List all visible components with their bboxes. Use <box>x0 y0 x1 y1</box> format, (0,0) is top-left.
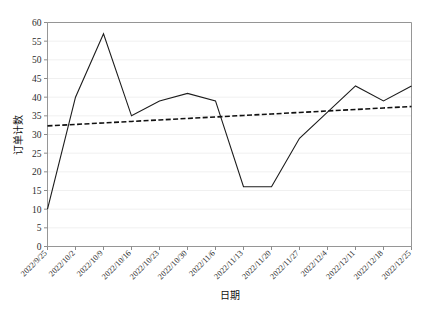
y-tick-label: 20 <box>32 167 42 177</box>
y-tick-label: 30 <box>32 130 42 140</box>
y-tick-label: 60 <box>32 18 42 28</box>
x-tick-label: 2022/12/18 <box>352 249 385 282</box>
x-tick-label: 2022/10/30 <box>156 249 189 282</box>
gridline-group <box>48 23 412 228</box>
x-tick-label: 2022/11/27 <box>268 249 301 282</box>
y-tick-label: 15 <box>32 186 42 196</box>
x-axis-tick-group: 2022/9/252022/10/22022/10/92022/10/16202… <box>19 247 413 282</box>
y-tick-label: 10 <box>32 205 42 215</box>
x-tick-label: 2022/10/16 <box>100 249 133 282</box>
y-axis-tick-group: 051015202530354045505560 <box>32 18 48 252</box>
x-tick-label: 2022/11/13 <box>212 249 245 282</box>
y-tick-label: 40 <box>32 93 42 103</box>
y-tick-label: 25 <box>32 149 42 159</box>
x-tick-label: 2022/9/25 <box>19 249 49 279</box>
x-tick-label: 2022/11/20 <box>240 249 273 282</box>
y-tick-label: 55 <box>32 37 42 47</box>
trend-line-dashed <box>48 107 412 126</box>
y-tick-label: 35 <box>32 111 42 121</box>
y-axis-title: 订单计数 <box>12 115 24 155</box>
y-tick-label: 5 <box>37 223 42 233</box>
x-axis-title: 日期 <box>220 290 240 301</box>
y-tick-label: 50 <box>32 55 42 65</box>
x-tick-label: 2022/10/23 <box>128 249 161 282</box>
line-chart: 051015202530354045505560 2022/9/252022/1… <box>0 0 426 311</box>
x-tick-label: 2022/12/11 <box>324 249 357 282</box>
y-tick-label: 45 <box>32 74 42 84</box>
x-tick-label: 2022/10/2 <box>47 249 77 279</box>
chart-canvas: 051015202530354045505560 2022/9/252022/1… <box>0 0 426 311</box>
x-tick-label: 2022/12/25 <box>380 249 413 282</box>
